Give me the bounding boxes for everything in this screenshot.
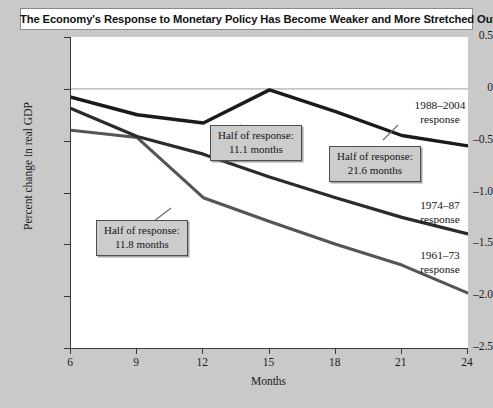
annotation-line-1: Half of response: — [104, 224, 180, 238]
x-tick-mark — [202, 348, 203, 354]
x-tick-label: 15 — [254, 356, 284, 368]
x-tick-mark — [401, 348, 402, 354]
x-axis-title: Months — [70, 375, 467, 387]
series-label-1961-73: 1961–73 response — [400, 249, 480, 276]
x-tick-label: 6 — [55, 356, 85, 368]
y-tick-mark — [64, 37, 70, 38]
series-label-years: 1961–73 — [400, 249, 480, 263]
y-tick-mark — [64, 141, 70, 142]
x-tick-label: 21 — [386, 356, 416, 368]
y-tick-label: 0.5 — [455, 29, 493, 41]
y-tick-label: –1.0 — [455, 185, 493, 197]
y-tick-label: –0.5 — [455, 133, 493, 145]
x-tick-label: 9 — [121, 356, 151, 368]
x-tick-mark — [136, 348, 137, 354]
annotation-half-response-11-1: Half of response: 11.1 months — [210, 125, 302, 161]
chart-lines — [71, 37, 468, 348]
x-tick-label: 24 — [452, 356, 482, 368]
plot-area — [70, 37, 468, 349]
page-title: The Economy's Response to Monetary Polic… — [20, 9, 473, 29]
x-tick-mark — [70, 348, 71, 354]
x-tick-mark — [335, 348, 336, 354]
series-label-word: response — [400, 213, 480, 227]
x-tick-label: 18 — [320, 356, 350, 368]
annotation-line-1: Half of response: — [337, 150, 413, 164]
annotation-half-response-11-8: Half of response: 11.8 months — [96, 220, 188, 256]
annotation-line-2: 11.1 months — [218, 143, 294, 157]
series-label-1988-2004: 1988–2004 response — [400, 99, 480, 126]
y-tick-mark — [64, 193, 70, 194]
y-axis-title: Percent change in real GDP — [22, 66, 34, 266]
y-tick-mark — [64, 296, 70, 297]
x-tick-mark — [467, 348, 468, 354]
y-tick-label: –2.5 — [455, 340, 493, 352]
series-label-1974-87: 1974–87 response — [400, 199, 480, 226]
series-label-years: 1988–2004 — [400, 99, 480, 113]
y-tick-mark — [64, 244, 70, 245]
y-tick-mark — [64, 89, 70, 90]
annotation-line-2: 11.8 months — [104, 238, 180, 252]
series-label-word: response — [400, 113, 480, 127]
y-tick-label: –2.0 — [455, 288, 493, 300]
x-tick-label: 12 — [187, 356, 217, 368]
annotation-half-response-21-6: Half of response: 21.6 months — [329, 146, 421, 182]
x-tick-mark — [269, 348, 270, 354]
annotation-line-2: 21.6 months — [337, 164, 413, 178]
annotation-line-1: Half of response: — [218, 129, 294, 143]
y-tick-label: 0 — [455, 81, 493, 93]
series-label-years: 1974–87 — [400, 199, 480, 213]
series-label-word: response — [400, 263, 480, 277]
y-tick-label: –1.5 — [455, 236, 493, 248]
chart-figure: The Economy's Response to Monetary Polic… — [0, 0, 493, 408]
